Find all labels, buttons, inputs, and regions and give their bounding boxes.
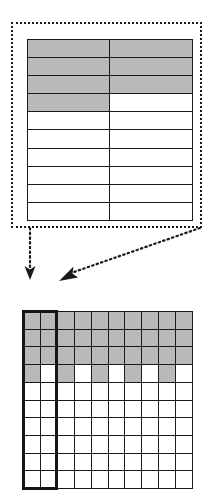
detail-cell bbox=[110, 167, 192, 184]
grid-row bbox=[24, 454, 192, 472]
grid-cell bbox=[142, 330, 159, 347]
grid-cell bbox=[58, 454, 75, 471]
grid-row bbox=[24, 312, 192, 330]
main-grid-wrap bbox=[23, 311, 193, 489]
detail-cell bbox=[28, 130, 110, 147]
detail-cell bbox=[110, 58, 192, 75]
grid-cell bbox=[92, 312, 109, 329]
detail-cell bbox=[110, 203, 192, 220]
grid-cell bbox=[176, 471, 192, 488]
detail-cell bbox=[28, 203, 110, 220]
grid-cell bbox=[176, 454, 192, 471]
grid-cell bbox=[24, 436, 41, 453]
grid-cell bbox=[109, 401, 126, 418]
grid-cell bbox=[92, 365, 109, 382]
detail-cell bbox=[28, 76, 110, 93]
grid-cell bbox=[109, 347, 126, 364]
grid-cell bbox=[125, 347, 142, 364]
grid-cell bbox=[58, 471, 75, 488]
callout-arrow-right bbox=[59, 228, 200, 281]
arrows-svg bbox=[0, 225, 215, 310]
grid-cell bbox=[159, 401, 176, 418]
grid-cell bbox=[58, 347, 75, 364]
detail-row bbox=[28, 94, 192, 112]
callout-arrow-left bbox=[25, 228, 36, 280]
grid-cell bbox=[75, 383, 92, 400]
detail-row bbox=[28, 40, 192, 58]
grid-cell bbox=[92, 401, 109, 418]
grid-cell bbox=[58, 330, 75, 347]
grid-cell bbox=[41, 312, 58, 329]
grid-cell bbox=[92, 383, 109, 400]
grid-decomposition-diagram bbox=[0, 0, 215, 501]
grid-cell bbox=[75, 436, 92, 453]
grid-row bbox=[24, 436, 192, 454]
detail-row bbox=[28, 58, 192, 76]
grid-cell bbox=[176, 383, 192, 400]
grid-cell bbox=[159, 347, 176, 364]
grid-cell bbox=[58, 401, 75, 418]
grid-cell bbox=[24, 330, 41, 347]
detail-cell bbox=[28, 94, 110, 111]
grid-cell bbox=[92, 418, 109, 435]
grid-cell bbox=[92, 330, 109, 347]
grid-cell bbox=[142, 365, 159, 382]
grid-cell bbox=[24, 312, 41, 329]
grid-cell bbox=[142, 347, 159, 364]
grid-cell bbox=[159, 418, 176, 435]
grid-cell bbox=[109, 365, 126, 382]
grid-cell bbox=[58, 312, 75, 329]
detail-table bbox=[27, 39, 193, 221]
grid-cell bbox=[41, 436, 58, 453]
grid-row bbox=[24, 471, 192, 488]
grid-cell bbox=[41, 383, 58, 400]
grid-cell bbox=[142, 312, 159, 329]
grid-cell bbox=[109, 383, 126, 400]
grid-cell bbox=[125, 365, 142, 382]
detail-cell bbox=[110, 40, 192, 57]
grid-cell bbox=[24, 401, 41, 418]
grid-cell bbox=[41, 401, 58, 418]
detail-row bbox=[28, 149, 192, 167]
grid-cell bbox=[125, 312, 142, 329]
grid-cell bbox=[41, 347, 58, 364]
detail-cell bbox=[110, 94, 192, 111]
grid-cell bbox=[176, 312, 192, 329]
grid-cell bbox=[24, 418, 41, 435]
grid-row bbox=[24, 365, 192, 383]
grid-cell bbox=[41, 471, 58, 488]
detail-cell bbox=[110, 130, 192, 147]
grid-row bbox=[24, 418, 192, 436]
grid-cell bbox=[125, 436, 142, 453]
grid-cell bbox=[58, 383, 75, 400]
grid-cell bbox=[58, 365, 75, 382]
detail-cell bbox=[110, 76, 192, 93]
grid-cell bbox=[109, 436, 126, 453]
grid-cell bbox=[75, 454, 92, 471]
grid-cell bbox=[125, 383, 142, 400]
grid-cell bbox=[24, 454, 41, 471]
detail-cell bbox=[28, 58, 110, 75]
grid-cell bbox=[142, 471, 159, 488]
detail-cell bbox=[28, 40, 110, 57]
grid-cell bbox=[125, 330, 142, 347]
grid-cell bbox=[159, 454, 176, 471]
grid-cell bbox=[125, 454, 142, 471]
grid-cell bbox=[75, 418, 92, 435]
detail-cell bbox=[28, 149, 110, 166]
callout-arrows bbox=[0, 225, 215, 310]
grid-cell bbox=[125, 418, 142, 435]
grid-cell bbox=[176, 418, 192, 435]
grid-cell bbox=[142, 454, 159, 471]
grid-cell bbox=[24, 365, 41, 382]
grid-cell bbox=[176, 436, 192, 453]
detail-cell bbox=[110, 149, 192, 166]
grid-cell bbox=[142, 401, 159, 418]
detail-cell bbox=[28, 167, 110, 184]
grid-cell bbox=[58, 436, 75, 453]
grid-cell bbox=[92, 347, 109, 364]
detail-row bbox=[28, 167, 192, 185]
grid-cell bbox=[159, 312, 176, 329]
grid-cell bbox=[159, 471, 176, 488]
grid-row bbox=[24, 330, 192, 348]
